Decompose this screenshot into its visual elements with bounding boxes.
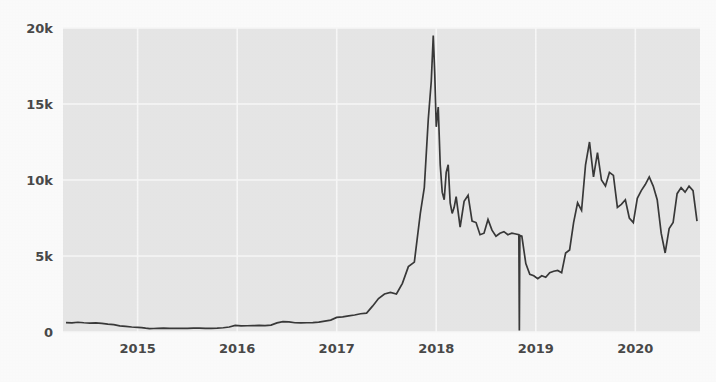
chart-figure: 05k10k15k20k 201520162017201820192020 <box>0 0 716 382</box>
y-tick-label: 0 <box>44 325 53 340</box>
x-tick-label: 2015 <box>120 341 156 356</box>
y-tick-label: 5k <box>35 249 53 264</box>
x-tick-label: 2016 <box>219 341 255 356</box>
price-history-line-chart: 05k10k15k20k 201520162017201820192020 <box>0 0 716 382</box>
y-tick-label: 20k <box>26 21 53 36</box>
x-tick-label: 2019 <box>518 341 554 356</box>
y-tick-label: 15k <box>26 97 53 112</box>
x-tick-label: 2017 <box>319 341 355 356</box>
x-tick-label: 2020 <box>617 341 653 356</box>
x-tick-label: 2018 <box>418 341 454 356</box>
y-tick-label: 10k <box>26 173 53 188</box>
